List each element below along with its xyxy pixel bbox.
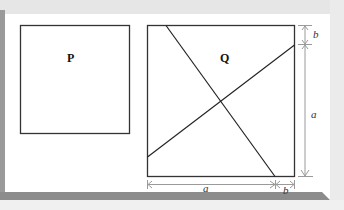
dim-label-a-vertical: a [311,108,317,120]
diagram-canvas: P Q b a [0,0,344,210]
label-q: Q [220,51,229,65]
frame-bottom-edge [0,192,330,200]
frame-left-edge [0,10,5,200]
label-p: P [67,51,74,65]
dim-label-b-horizontal: b [283,184,289,196]
diagram-frame: P Q b a [0,0,344,210]
frame-right-edge [330,0,344,210]
dim-label-b-vertical: b [313,28,319,40]
frame-top-edge [0,0,344,14]
dim-label-a-horizontal: a [203,182,209,194]
